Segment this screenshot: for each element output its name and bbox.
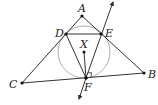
label-d: D bbox=[54, 27, 64, 40]
point-d bbox=[64, 32, 67, 35]
point-e bbox=[99, 32, 102, 35]
label-x: X bbox=[79, 38, 89, 51]
right-angle-mark bbox=[88, 73, 92, 78]
point-f bbox=[84, 76, 88, 80]
segment-cb bbox=[22, 73, 144, 83]
label-b: B bbox=[147, 68, 156, 81]
label-e: E bbox=[104, 27, 113, 40]
label-c: C bbox=[9, 78, 18, 91]
point-b bbox=[142, 71, 145, 74]
geometry-diagram: A B C D E F X bbox=[0, 0, 158, 105]
label-a: A bbox=[77, 2, 86, 15]
point-c bbox=[20, 81, 23, 84]
label-f: F bbox=[83, 81, 92, 94]
line-fe-up bbox=[86, 2, 113, 78]
